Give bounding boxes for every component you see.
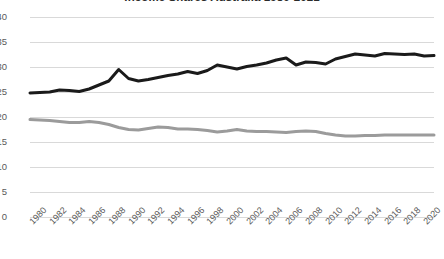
y-tick-label: 30 [0, 62, 7, 72]
chart-container: Income Shares Australia 1980-2021 403530… [0, 0, 444, 259]
y-tick-label: 20 [0, 112, 7, 122]
chart-title: Income Shares Australia 1980-2021 [0, 0, 444, 3]
y-tick-label: 35 [0, 37, 7, 47]
plot-area [30, 17, 434, 217]
series-layer [30, 17, 434, 217]
y-tick-label: 10 [0, 162, 7, 172]
data-series-line [30, 120, 434, 137]
y-tick-label: 25 [0, 87, 7, 97]
y-tick-label: 15 [0, 137, 7, 147]
y-tick-label: 0 [0, 212, 7, 222]
data-series-line [30, 54, 434, 94]
y-tick-label: 5 [0, 187, 7, 197]
y-tick-label: 40 [0, 12, 7, 22]
